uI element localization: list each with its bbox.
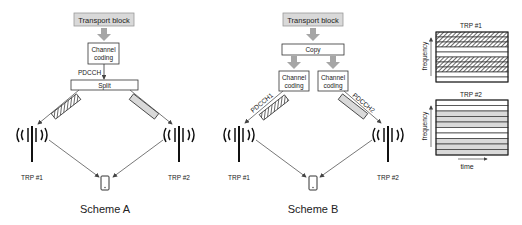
trp1-antenna-icon-b <box>224 126 254 162</box>
split-to-trp2-arrow <box>130 90 172 124</box>
trp2-freq-label: frequency <box>421 111 429 140</box>
down-arrow-icon <box>326 56 340 69</box>
scheme-a: Transport block Channel coding PDCCH Spl… <box>17 13 194 215</box>
time-label: time <box>460 163 473 170</box>
trp1-freq-label: frequency <box>421 41 429 70</box>
down-arrow-icon <box>287 56 301 69</box>
trp2-to-ue-arrow <box>113 140 163 177</box>
channel-coding-label-b2-1: Channel <box>321 74 346 81</box>
trp2-antenna-icon <box>164 126 194 162</box>
transport-block-label-b: Transport block <box>287 16 339 25</box>
trp2-to-ue-arrow-b <box>320 140 372 177</box>
trp1-grid <box>436 32 508 82</box>
split-label: Split <box>98 82 111 90</box>
trp1-label-a: TRP #1 <box>21 174 43 181</box>
channel-coding-label-b2-2: coding <box>323 82 343 90</box>
trp2-antenna-icon-b <box>373 126 403 162</box>
hatched-block-a <box>51 94 81 119</box>
comp-diagram: Transport block Channel coding PDCCH Spl… <box>0 0 522 225</box>
split-to-trp1-arrow <box>38 90 79 124</box>
scheme-b-caption: Scheme B <box>288 203 339 215</box>
trp1-label-b: TRP #1 <box>228 174 250 181</box>
resource-grids: TRP #1 frequency TRP #2 <box>421 22 508 170</box>
gray-block-a <box>129 94 159 119</box>
down-arrow-icon <box>306 28 320 41</box>
copy-label: Copy <box>305 46 321 54</box>
channel-coding-label-b1-2: coding <box>284 82 304 90</box>
scheme-a-caption: Scheme A <box>80 203 131 215</box>
ue-phone-icon-b <box>309 176 317 190</box>
ue-phone-icon <box>101 176 109 190</box>
channel-coding-label-a-1: Channel <box>91 46 116 53</box>
trp1-grid-title: TRP #1 <box>460 22 482 29</box>
trp2-label-a: TRP #2 <box>168 174 190 181</box>
channel-coding-label-b1-1: Channel <box>282 74 307 81</box>
transport-block-label-a: Transport block <box>78 16 130 25</box>
trp2-label-b: TRP #2 <box>377 174 399 181</box>
pdcch-label: PDCCH <box>78 69 101 76</box>
trp1-antenna-icon <box>17 126 47 162</box>
down-arrow-icon <box>97 28 111 41</box>
trp2-grid-title: TRP #2 <box>460 91 482 98</box>
scheme-b: Transport block Copy Channel coding Chan… <box>224 13 403 215</box>
trp1-to-ue-arrow <box>49 140 99 177</box>
trp1-to-ue-arrow-b <box>256 140 306 177</box>
trp2-grid <box>436 100 508 155</box>
channel-coding-label-a-2: coding <box>94 54 114 62</box>
